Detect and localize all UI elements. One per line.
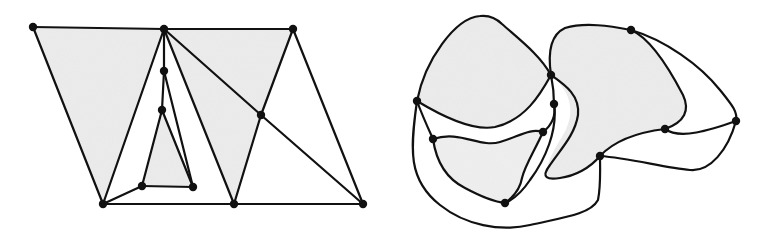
left-node-h — [189, 183, 197, 191]
right-node-p5 — [429, 135, 437, 143]
left-node-e — [158, 106, 166, 114]
right-region-top-left — [417, 16, 551, 128]
left-node-a — [29, 23, 37, 31]
planar-graph-figure — [0, 0, 768, 243]
right-node-p10 — [596, 152, 604, 160]
left-edge-c-k — [293, 29, 363, 204]
figure-canvas — [0, 0, 768, 243]
right-node-p7 — [627, 26, 635, 34]
left-node-f — [257, 111, 265, 119]
right-node-p6 — [501, 199, 509, 207]
left-node-c — [289, 25, 297, 33]
right-node-p9 — [732, 117, 740, 125]
left-edge-g-h — [142, 186, 193, 187]
right-node-p1 — [413, 97, 421, 105]
left-node-g — [138, 182, 146, 190]
right-region-right-big — [547, 25, 686, 178]
left-edge-f-k — [261, 115, 363, 204]
right-edge-p2-p3 — [551, 75, 554, 104]
left-edge-d-e — [162, 71, 164, 110]
right-node-p8 — [661, 125, 669, 133]
left-node-j — [230, 200, 238, 208]
left-node-d — [160, 67, 168, 75]
right-node-p4 — [539, 128, 547, 136]
left-node-k — [359, 200, 367, 208]
left-node-i — [99, 200, 107, 208]
right-node-p3 — [550, 100, 558, 108]
left-node-b — [160, 25, 168, 33]
right-node-p2 — [547, 71, 555, 79]
